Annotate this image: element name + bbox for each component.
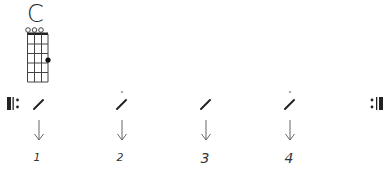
down-arrow-icon xyxy=(286,120,295,140)
beat-1 xyxy=(34,100,44,140)
down-arrow-icon xyxy=(202,120,211,140)
slash-icon xyxy=(117,100,126,109)
repeat-start-icon xyxy=(7,97,19,110)
open-string-icon xyxy=(32,28,37,33)
finger-dot-icon xyxy=(45,57,50,62)
chord-diagram xyxy=(26,28,51,82)
slash-icon xyxy=(285,100,294,109)
beat-number-1: 1 xyxy=(27,151,47,164)
nut xyxy=(27,33,48,36)
slash-icon xyxy=(201,100,210,109)
open-string-icon xyxy=(39,28,44,33)
accent-dot-icon xyxy=(289,91,291,93)
open-string-icon xyxy=(26,28,31,33)
beat-number-3: 3 xyxy=(195,150,215,166)
slash-icon xyxy=(34,100,43,109)
beat-number-2: 2 xyxy=(110,151,130,164)
beat-2 xyxy=(117,91,127,140)
beat-4 xyxy=(285,91,295,140)
down-arrow-icon xyxy=(35,120,44,140)
down-arrow-icon xyxy=(118,120,127,140)
beat-3 xyxy=(201,100,211,140)
repeat-end-icon xyxy=(371,97,383,110)
accent-dot-icon xyxy=(121,91,123,93)
beat-number-4: 4 xyxy=(279,150,299,166)
